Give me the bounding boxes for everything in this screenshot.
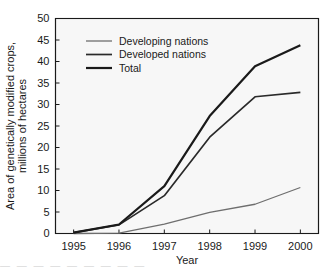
y-tick-label-30: 30: [37, 98, 49, 110]
y-tick-label-25: 25: [37, 120, 49, 132]
y-tick-label-35: 35: [37, 77, 49, 89]
y-tick-label-50: 50: [37, 12, 49, 24]
y-tick-label-20: 20: [37, 141, 49, 153]
y-axis-title: Area of genetically modified crops,milli…: [4, 42, 28, 210]
legend-label-1: Developed nations: [119, 48, 206, 60]
y-tick-label-40: 40: [37, 55, 49, 67]
x-tick-label-1999: 1999: [243, 240, 267, 252]
x-tick-label-1996: 1996: [107, 240, 131, 252]
legend-label-2: Total: [119, 62, 141, 74]
x-tick-label-2000: 2000: [288, 240, 312, 252]
y-tick-label-5: 5: [43, 206, 49, 218]
chart-figure: 0510152025303540455019951996199719981999…: [0, 0, 333, 270]
y-axis-title-line-2: millions of hectares: [16, 78, 28, 173]
x-tick-label-1995: 1995: [61, 240, 85, 252]
y-tick-label-0: 0: [43, 227, 49, 239]
y-tick-label-45: 45: [37, 34, 49, 46]
x-tick-label-1998: 1998: [197, 240, 221, 252]
line-chart: 0510152025303540455019951996199719981999…: [0, 0, 333, 270]
y-tick-label-15: 15: [37, 163, 49, 175]
y-axis-title-line-1: Area of genetically modified crops,: [4, 42, 16, 210]
legend-label-0: Developing nations: [119, 35, 208, 47]
x-tick-label-1997: 1997: [152, 240, 176, 252]
page-footer-artifact: — — — — — — — — —: [0, 262, 333, 270]
y-tick-label-10: 10: [37, 184, 49, 196]
